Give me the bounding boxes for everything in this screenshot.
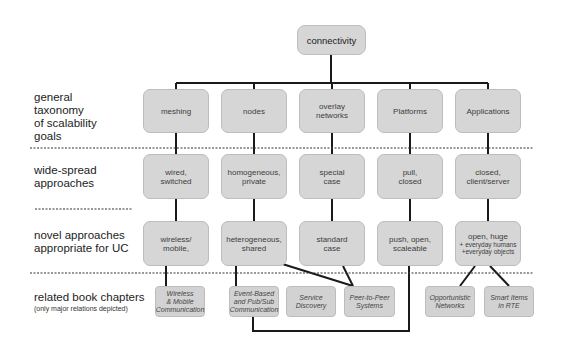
- node-label: mobile,: [163, 244, 189, 253]
- row-label-line: goals: [34, 130, 62, 142]
- row-label-widespread: wide-spread approaches: [34, 164, 97, 190]
- node-label: open, huge: [468, 232, 508, 241]
- novel-node-nodes: heterogeneous, shared: [221, 221, 287, 266]
- node-label: standard: [316, 235, 347, 244]
- node-label: case: [324, 177, 341, 186]
- novel-node-meshing: wireless/ mobile,: [143, 221, 209, 266]
- node-label: wired,: [165, 168, 186, 177]
- node-label: wireless/: [160, 235, 191, 244]
- novel-node-platforms: push, open, scaleable: [377, 221, 443, 266]
- chapter-label: Systems: [356, 302, 383, 310]
- row-label-novel: novel approaches appropriate for UC: [34, 229, 129, 255]
- novel-node-overlay: standard case: [299, 221, 365, 266]
- goal-node-overlay-networks: overlay networks: [299, 89, 365, 133]
- chapter-label: Discovery: [296, 302, 327, 310]
- widespread-node-nodes: homogeneous, private: [221, 154, 287, 199]
- widespread-node-meshing: wired, switched: [143, 154, 209, 199]
- chapter-wireless-mobile: Wireless & Mobile Communication: [155, 286, 205, 317]
- chapter-peer-to-peer: Peer-to-Peer Systems: [344, 286, 395, 317]
- goal-node-meshing: meshing: [143, 89, 209, 133]
- goal-node-nodes: nodes: [221, 89, 287, 133]
- widespread-node-platforms: pull, closed: [377, 154, 443, 199]
- row-label-goals: general taxonomy of scalability goals: [34, 91, 97, 143]
- widespread-node-applications: closed, client/server: [455, 154, 521, 199]
- node-label: special: [320, 168, 345, 177]
- node-label: nodes: [243, 107, 265, 116]
- node-label: closed,: [475, 168, 500, 177]
- row-label-line: general: [34, 91, 72, 103]
- node-label: shared: [242, 244, 266, 253]
- node-label: private: [242, 177, 266, 186]
- row-label-chapters: related book chapters (only major relati…: [34, 291, 145, 313]
- row-label-line: appropriate for UC: [34, 242, 129, 254]
- chapter-label: Wireless: [167, 290, 194, 298]
- node-label: Applications: [466, 107, 509, 116]
- chapter-service-discovery: Service Discovery: [286, 286, 336, 317]
- row-label-line: taxonomy: [34, 104, 84, 116]
- chapters-title: related book chapters: [34, 291, 145, 303]
- row-label-line: novel approaches: [34, 229, 125, 241]
- chapter-label: & Mobile: [166, 298, 193, 306]
- node-label: case: [324, 244, 341, 253]
- goal-node-platforms: Platforms: [377, 89, 443, 133]
- node-sublabel: + everyday humans: [460, 241, 517, 248]
- chapters-note: (only major relations depicted): [34, 304, 145, 313]
- goal-node-applications: Applications: [455, 89, 521, 133]
- node-label: closed: [398, 177, 421, 186]
- connectivity-root-node: connectivity: [297, 25, 366, 55]
- node-label: meshing: [161, 107, 191, 116]
- chapter-label: Communication: [156, 306, 205, 314]
- row-label-line: of scalability: [34, 117, 97, 129]
- node-label: overlay: [319, 102, 345, 111]
- node-sublabel: +everyday objects: [462, 248, 515, 255]
- chapter-label: Opportunistic: [429, 294, 470, 302]
- chapter-label: Networks: [435, 302, 464, 310]
- node-label: Platforms: [393, 107, 427, 116]
- chapter-smart-items-rte: Smart Items in RTE: [484, 286, 534, 317]
- node-label: scaleable: [393, 244, 427, 253]
- node-label: homogeneous,: [228, 168, 281, 177]
- chapter-label: Smart Items: [490, 294, 528, 302]
- node-label: networks: [316, 111, 348, 120]
- chapter-label: Event-Based: [234, 290, 274, 298]
- node-label: pull,: [403, 168, 418, 177]
- novel-node-applications: open, huge + everyday humans +everyday o…: [455, 221, 521, 266]
- row-label-line: approaches: [34, 177, 94, 189]
- node-label: client/server: [466, 177, 509, 186]
- node-label: push, open,: [389, 235, 431, 244]
- chapter-opportunistic-networks: Opportunistic Networks: [425, 286, 475, 317]
- chapter-label: in RTE: [498, 302, 519, 310]
- chapter-event-based-pubsub: Event-Based and Pub/Sub Communication: [229, 286, 279, 317]
- chapter-label: and Pub/Sub: [234, 298, 274, 306]
- chapter-label: Service: [299, 294, 322, 302]
- root-label: connectivity: [307, 36, 357, 45]
- chapter-label: Communication: [230, 306, 279, 314]
- scalability-taxonomy-diagram: connectivity general taxonomy of scalabi…: [0, 0, 562, 353]
- node-label: heterogeneous,: [226, 235, 282, 244]
- widespread-node-overlay: special case: [299, 154, 365, 199]
- row-label-line: wide-spread: [34, 164, 97, 176]
- node-label: switched: [160, 177, 191, 186]
- chapter-label: Peer-to-Peer: [350, 294, 390, 302]
